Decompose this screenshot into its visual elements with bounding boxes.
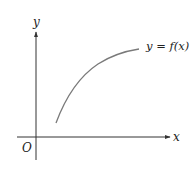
function-curve: [56, 49, 139, 123]
y-axis-label: y: [32, 15, 40, 29]
x-axis-label: x: [173, 130, 180, 144]
function-graph: y x O y = f(x): [0, 0, 194, 172]
origin-label: O: [22, 141, 32, 155]
curve-label: y = f(x): [145, 39, 189, 53]
